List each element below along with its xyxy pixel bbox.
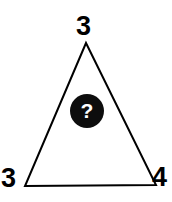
- puzzle-figure: 3 3 4 ?: [0, 0, 172, 202]
- question-mark-icon: ?: [70, 94, 104, 128]
- vertex-label-top: 3: [76, 13, 91, 40]
- vertex-label-bottom-right: 4: [152, 164, 167, 191]
- question-mark-glyph: ?: [81, 100, 94, 121]
- vertex-label-bottom-left: 3: [1, 165, 16, 192]
